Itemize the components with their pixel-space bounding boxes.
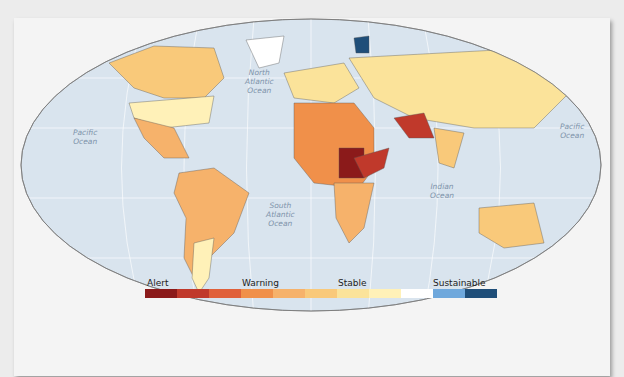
legend-labels: Alert Warning Stable Sustainable <box>145 278 500 289</box>
ocean-label-line: Pacific <box>560 122 584 131</box>
ocean-label-line: Ocean <box>430 191 454 200</box>
ocean-label-pacific-east: Pacific Ocean <box>560 122 584 140</box>
ocean-label-line: Ocean <box>245 86 274 95</box>
ocean-label-line: Ocean <box>560 131 584 140</box>
ocean-label-south-atlantic: South Atlantic Ocean <box>266 201 295 228</box>
legend-swatch <box>145 289 177 298</box>
ocean-label-line: Ocean <box>266 219 295 228</box>
legend-swatch <box>241 289 273 298</box>
legend-color-bar <box>145 289 497 298</box>
ocean-label-pacific-west: Pacific Ocean <box>73 128 97 146</box>
ocean-label-line: Ocean <box>73 137 97 146</box>
map-legend: Alert Warning Stable Sustainable <box>145 278 500 303</box>
legend-swatch <box>273 289 305 298</box>
legend-label-sustainable: Sustainable <box>433 278 486 288</box>
ocean-label-indian: Indian Ocean <box>430 182 454 200</box>
legend-label-alert: Alert <box>147 278 168 288</box>
ocean-label-line: Atlantic <box>245 77 274 86</box>
legend-swatch <box>401 289 433 298</box>
ocean-label-line: South <box>266 201 295 210</box>
ocean-label-line: Pacific <box>73 128 97 137</box>
ocean-label-line: Atlantic <box>266 210 295 219</box>
legend-label-warning: Warning <box>242 278 279 288</box>
legend-swatch <box>337 289 369 298</box>
legend-swatch <box>433 289 465 298</box>
ocean-label-line: North <box>245 68 274 77</box>
legend-swatch <box>465 289 497 298</box>
legend-swatch <box>369 289 401 298</box>
ocean-label-line: Indian <box>430 182 454 191</box>
legend-swatch <box>305 289 337 298</box>
legend-label-stable: Stable <box>338 278 367 288</box>
ocean-label-north-atlantic: North Atlantic Ocean <box>245 68 274 95</box>
legend-swatch <box>209 289 241 298</box>
legend-swatch <box>177 289 209 298</box>
world-map <box>14 18 610 377</box>
